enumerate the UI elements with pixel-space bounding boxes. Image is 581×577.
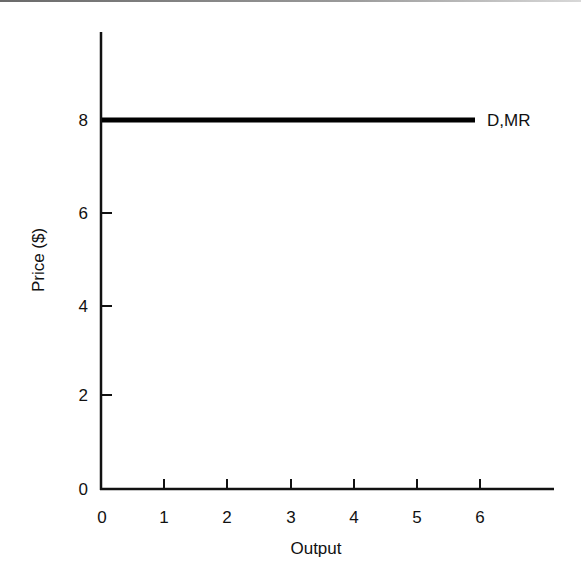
demand-mr-label: D,MR xyxy=(487,111,530,130)
y-ticks xyxy=(101,213,112,395)
x-tick-label: 5 xyxy=(412,508,421,527)
y-tick-label: 8 xyxy=(79,111,88,130)
x-tick-labels: 0 1 2 3 4 5 6 xyxy=(97,508,484,527)
x-tick-label: 6 xyxy=(475,508,484,527)
y-tick-label: 2 xyxy=(79,386,88,405)
x-ticks xyxy=(164,479,480,489)
x-tick-label: 2 xyxy=(222,508,231,527)
chart: 8 6 4 2 0 0 1 2 3 4 5 6 Output Price ($)… xyxy=(0,0,581,577)
x-tick-label: 0 xyxy=(97,508,106,527)
x-tick-label: 3 xyxy=(286,508,295,527)
y-tick-label: 0 xyxy=(79,480,88,499)
x-tick-label: 4 xyxy=(349,508,358,527)
x-tick-label: 1 xyxy=(159,508,168,527)
y-tick-labels: 8 6 4 2 0 xyxy=(79,111,88,499)
y-tick-label: 4 xyxy=(79,297,88,316)
y-tick-label: 6 xyxy=(79,204,88,223)
y-axis-title: Price ($) xyxy=(29,228,48,292)
x-axis-title: Output xyxy=(290,539,341,558)
